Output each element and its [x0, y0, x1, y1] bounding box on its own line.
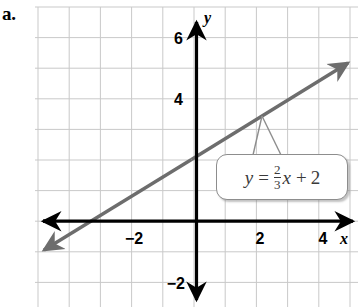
equation-plus: +	[292, 168, 311, 187]
equation-fraction: 2 3	[274, 163, 281, 191]
equation-constant: 2	[311, 168, 321, 187]
equation-callout-box: y = 2 3 x + 2	[216, 154, 348, 200]
axis-names: y x	[202, 9, 348, 247]
x-axis-label: x	[339, 230, 348, 247]
part-label: a.	[2, 4, 16, 23]
x-tick-label-2: 2	[256, 230, 265, 247]
equation-text: y = 2 3 x + 2	[244, 163, 320, 191]
callout-leader-lines	[253, 116, 281, 155]
y-tick-label-4: 4	[174, 91, 183, 108]
equation-equals: =	[254, 168, 273, 187]
equation-lhs: y	[244, 168, 254, 187]
y-axis-label: y	[202, 9, 212, 27]
y-tick-label-6: 6	[174, 30, 183, 47]
x-tick-label-neg2: −2	[125, 230, 143, 247]
y-tick-label-neg2: −2	[167, 275, 185, 292]
equation-variable: x	[282, 168, 292, 187]
fraction-denominator: 3	[274, 177, 281, 191]
figure-root: a.	[0, 0, 358, 307]
x-tick-label-4: 4	[319, 230, 328, 247]
fraction-numerator: 2	[274, 163, 281, 176]
